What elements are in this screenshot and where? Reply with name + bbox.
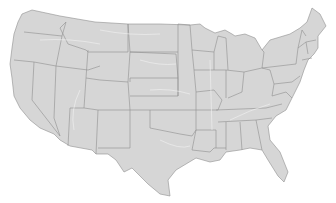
states-layer [10, 8, 326, 196]
us-outline [10, 8, 326, 196]
us-map [0, 0, 336, 203]
